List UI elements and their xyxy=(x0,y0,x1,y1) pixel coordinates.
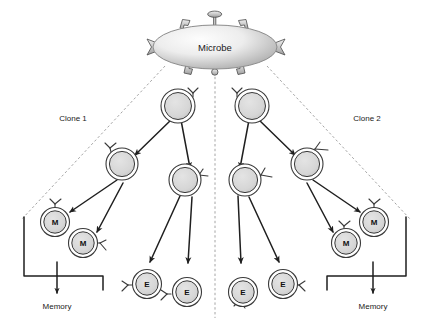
cell-label: M xyxy=(371,218,378,227)
cell-right-memory-1: M xyxy=(360,199,389,237)
arrow-L-t2b-to-e1 xyxy=(150,196,180,262)
cell-right-progenitor xyxy=(232,88,269,123)
memory-label-left: Memory xyxy=(43,302,72,311)
cell-left-tier2-b xyxy=(169,164,208,196)
cell-label: M xyxy=(80,239,87,248)
cell-left-progenitor xyxy=(161,88,198,123)
cell-label: E xyxy=(144,280,150,289)
clone-boundaries xyxy=(22,66,410,318)
cell-left-effector-1: E xyxy=(122,270,162,299)
receptor-icon xyxy=(369,199,380,208)
arrow-L-prog-to-t2a xyxy=(135,119,172,155)
cell-right-effector-2: E xyxy=(269,270,306,299)
cell-right-effector-1: E xyxy=(229,278,258,309)
receptor-icon xyxy=(161,290,171,300)
clonal-selection-diagram: Microbe xyxy=(0,0,429,326)
cell-label: E xyxy=(240,288,246,297)
arrow-R-t2a-to-e1 xyxy=(238,196,241,263)
cell-right-tier2-a xyxy=(229,164,272,196)
arrow-L-prog-to-t2b xyxy=(181,120,190,168)
cell-left-memory-2: M xyxy=(69,229,107,258)
memory-label-right: Memory xyxy=(359,302,388,311)
cell-label: M xyxy=(52,218,59,227)
arrow-R-prog-to-t2a xyxy=(240,120,249,168)
cell-left-memory-1: M xyxy=(41,199,70,237)
clone1-label: Clone 1 xyxy=(59,114,87,123)
cell-label: E xyxy=(280,280,286,289)
cell-right-tier2-b xyxy=(291,142,328,180)
cell-label: E xyxy=(184,288,190,297)
microbe-group: Microbe xyxy=(147,11,285,75)
receptor-icon xyxy=(122,281,132,291)
arrow-L-t2b-to-e2 xyxy=(188,197,192,263)
arrow-R-t2a-to-e2 xyxy=(249,197,279,262)
microbe-label: Microbe xyxy=(198,42,232,53)
cell-label: M xyxy=(343,239,350,248)
antigen-top-knob xyxy=(208,11,222,26)
arrow-R-prog-to-t2b xyxy=(258,119,295,155)
clone2-label: Clone 2 xyxy=(353,114,381,123)
clone2-boundary-line xyxy=(267,66,410,219)
cell-right-memory-2: M xyxy=(332,221,361,258)
cell-left-tier2-a xyxy=(105,143,138,180)
receptor-icon xyxy=(50,199,61,208)
cell-left-effector-2: E xyxy=(161,278,202,307)
